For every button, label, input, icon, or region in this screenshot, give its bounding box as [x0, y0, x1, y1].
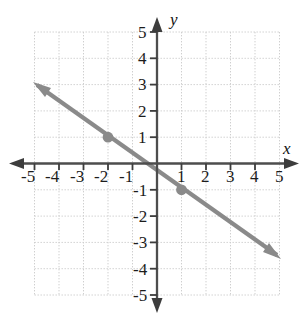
- y-tick-label--2: -2: [133, 208, 147, 225]
- x-tick-label-1: 1: [177, 168, 186, 185]
- point-b: [176, 184, 187, 195]
- x-tick-label--3: -3: [70, 168, 84, 185]
- x-tick-label-2: 2: [201, 168, 210, 185]
- x-tick-label--2: -2: [94, 168, 108, 185]
- x-tick-label--4: -4: [45, 168, 59, 185]
- y-axis-arrow-up: [152, 17, 163, 32]
- y-tick-label--1: -1: [133, 182, 147, 199]
- y-tick-label-5: 5: [138, 24, 147, 41]
- y-tick-label-4: 4: [138, 50, 147, 67]
- point-a: [103, 132, 114, 143]
- x-tick-label-3: 3: [226, 168, 235, 185]
- x-axis-label: x: [283, 140, 291, 157]
- y-axis-label: y: [170, 11, 178, 28]
- x-tick-label-4: 4: [250, 168, 259, 185]
- y-axis-arrow-down: [152, 298, 163, 313]
- y-tick-label-2: 2: [138, 103, 147, 120]
- y-tick-label--3: -3: [133, 234, 147, 251]
- y-tick-label--4: -4: [133, 261, 147, 278]
- x-tick-label-5: 5: [275, 168, 284, 185]
- x-tick-label--5: -5: [21, 168, 35, 185]
- coordinate-plane: [0, 0, 306, 316]
- y-tick-label--5: -5: [133, 287, 147, 304]
- graph-figure: y x -5 -4 -3 -2 -1 1 2 3 4 5 5 4 3 2 1 -…: [0, 0, 306, 316]
- x-axis-arrow-right: [284, 158, 299, 169]
- x-tick-label--1: -1: [119, 168, 133, 185]
- y-tick-label-1: 1: [138, 129, 147, 146]
- y-tick-label-3: 3: [138, 76, 147, 93]
- axis-lines: [16, 24, 292, 306]
